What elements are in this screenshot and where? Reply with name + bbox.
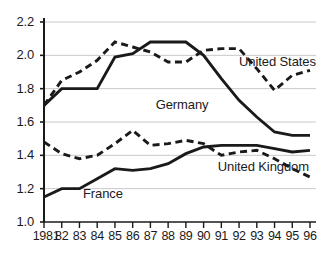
series-label-united-kingdom: United Kingdom	[218, 159, 309, 174]
series-line-united-states	[44, 42, 310, 105]
y-tick-label: 1.4	[4, 148, 34, 161]
series-label-united-states: United States	[239, 54, 316, 69]
x-tick-marks	[44, 222, 310, 228]
series-label-germany: Germany	[156, 97, 209, 112]
y-tick-label: 1.2	[4, 182, 34, 195]
x-tick-label: 96	[300, 230, 320, 243]
chart-plot-area	[0, 0, 330, 254]
y-tick-label: 1.0	[4, 215, 34, 228]
line-chart: 2.22.01.81.61.41.21.0 198182838485868788…	[0, 0, 330, 254]
series-label-france: France	[83, 186, 123, 201]
y-tick-label: 1.8	[4, 82, 34, 95]
y-tick-label: 2.0	[4, 48, 34, 61]
y-tick-label: 1.6	[4, 115, 34, 128]
y-tick-label: 2.2	[4, 15, 34, 28]
